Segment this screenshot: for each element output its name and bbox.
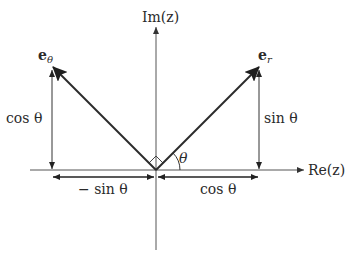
e-theta-label: eθ (38, 47, 53, 65)
e-r-vertical-label: sin θ (264, 110, 298, 126)
e-theta-horizontal-label: − sin θ (78, 181, 128, 197)
polar-unit-vectors-diagram: Re(z) Im(z) θ er eθ sin θ cos θ cos θ − … (0, 0, 362, 262)
angle-theta-label: θ (179, 150, 188, 166)
e-theta-vector (53, 67, 156, 170)
imaginary-axis-label: Im(z) (142, 9, 179, 25)
real-axis-label: Re(z) (308, 162, 345, 178)
e-theta-vertical-label: cos θ (6, 110, 42, 126)
e-r-label: er (258, 47, 273, 65)
e-r-horizontal-label: cos θ (200, 181, 236, 197)
e-r-vector (156, 67, 259, 170)
